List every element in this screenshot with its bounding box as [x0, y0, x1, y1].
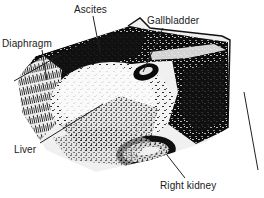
label-right-kidney: Right kidney	[160, 180, 216, 191]
ultrasound-scan-image	[0, 0, 264, 198]
label-ascites: Ascites	[74, 4, 107, 15]
ultrasound-figure: Ascites Diaphragm Gallbladder Liver Righ…	[0, 0, 264, 198]
lower-right-marker-line	[244, 92, 258, 170]
scan-body	[0, 0, 264, 198]
label-liver: Liver	[14, 144, 36, 155]
label-gallbladder: Gallbladder	[147, 15, 199, 26]
label-diaphragm: Diaphragm	[2, 38, 52, 49]
right-kidney-leader-line	[167, 155, 185, 178]
